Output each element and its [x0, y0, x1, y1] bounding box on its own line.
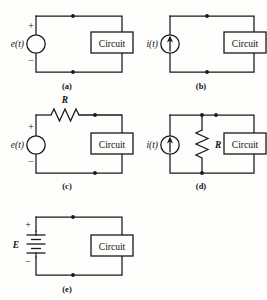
node-dot: [200, 171, 204, 175]
source-label-d: i(t): [146, 140, 158, 151]
panel-caption-c: (c): [62, 181, 72, 191]
circuit-block-label: Circuit: [99, 39, 126, 49]
source-label-c: e(t): [11, 140, 24, 151]
voltage-source-symbol-a: [27, 35, 45, 53]
panel-caption-a: (a): [62, 81, 72, 91]
circuit-block-label: Circuit: [99, 242, 126, 252]
minus-sign-e: −: [25, 256, 31, 267]
panel-caption-d: (d): [196, 181, 207, 191]
panel-e: Circuit E + − (e): [0, 195, 134, 300]
panel-b: Circuit i(t) (b): [134, 0, 267, 95]
source-label-e: E: [12, 240, 19, 250]
panel-caption-b: (b): [196, 81, 207, 91]
plus-sign-a: +: [28, 20, 34, 31]
panel-caption-e: (e): [62, 284, 72, 294]
battery-symbol-e: [27, 231, 46, 257]
voltage-source-symbol-c: [27, 136, 45, 154]
node-dot: [71, 14, 75, 18]
node-dot: [71, 70, 75, 74]
plus-sign-c: +: [28, 121, 34, 132]
node-dot: [200, 113, 204, 117]
node-dot: [205, 14, 209, 18]
plus-sign-e: +: [25, 219, 31, 230]
circuit-diagram-e: Circuit E + − (e): [0, 195, 134, 300]
node-dot: [93, 113, 97, 117]
circuit-diagram-a: Circuit e(t) + − (a): [0, 0, 134, 95]
resistor-label-d: R: [214, 140, 221, 150]
node-dot: [71, 273, 75, 277]
source-label-a: e(t): [11, 39, 24, 50]
parallel-resistor-d: [196, 130, 208, 158]
circuit-diagram-b: Circuit i(t) (b): [134, 0, 267, 95]
panel-c: Circuit R e(t) + − (c): [0, 95, 134, 195]
figure-sheet: Circuit e(t) + − (a) Circuit i(t) (b): [0, 0, 267, 300]
resistor-label-c: R: [61, 95, 68, 105]
circuit-block-label: Circuit: [99, 140, 126, 150]
panel-a: Circuit e(t) + − (a): [0, 0, 134, 95]
circuit-diagram-d: R Circuit i(t) (d): [134, 95, 267, 195]
minus-sign-a: −: [28, 55, 34, 66]
circuit-block-label: Circuit: [232, 39, 259, 49]
circuit-diagram-c: Circuit R e(t) + − (c): [0, 95, 134, 195]
circuit-block-label: Circuit: [232, 140, 259, 150]
series-resistor-c: [51, 109, 122, 121]
node-dot: [214, 113, 218, 117]
node-dot: [205, 70, 209, 74]
minus-sign-c: −: [28, 156, 34, 167]
node-dot: [93, 171, 97, 175]
node-dot: [71, 215, 75, 219]
panel-d: R Circuit i(t) (d): [134, 95, 267, 195]
source-label-b: i(t): [146, 39, 158, 50]
